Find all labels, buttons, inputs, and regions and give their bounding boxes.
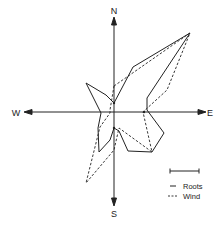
- legend-roots-label: Roots: [183, 182, 203, 191]
- label-east: E: [207, 108, 213, 118]
- center-marker: [113, 127, 115, 129]
- arrow-west-icon: [24, 110, 32, 115]
- label-north: N: [111, 6, 118, 16]
- arrow-north-icon: [112, 17, 117, 25]
- center-marker: [113, 102, 115, 104]
- wind-polygon: [86, 33, 190, 183]
- label-west: W: [12, 108, 21, 118]
- center-marker: [143, 111, 145, 113]
- roots-polygon: [86, 33, 190, 152]
- scale-bar: [170, 169, 199, 174]
- compass-axes: [24, 17, 206, 206]
- arrow-south-icon: [112, 198, 117, 206]
- arrow-east-icon: [198, 110, 206, 115]
- legend: Roots Wind: [168, 169, 203, 202]
- label-south: S: [111, 209, 117, 219]
- rose-diagram: N S W E Roots Wind: [0, 0, 224, 228]
- legend-wind-label: Wind: [183, 192, 200, 201]
